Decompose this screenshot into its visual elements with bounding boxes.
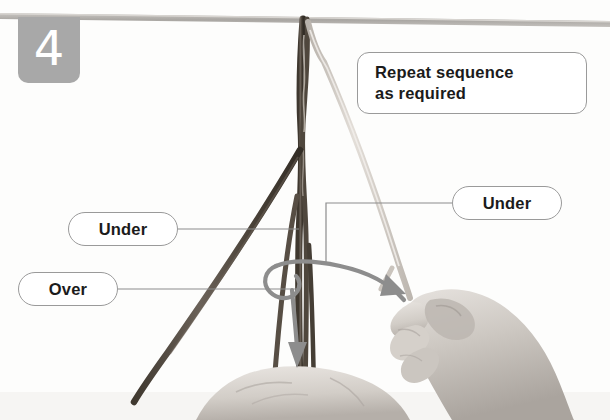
callout-under-left-label: Under xyxy=(99,220,148,239)
callout-over-label: Over xyxy=(49,280,87,299)
callout-under-right: Under xyxy=(452,186,562,220)
callout-over: Over xyxy=(18,272,118,306)
step-number-text: 4 xyxy=(34,24,65,72)
callout-under-right-label: Under xyxy=(483,194,532,213)
callout-under-left: Under xyxy=(68,212,178,246)
callout-repeat-sequence: Repeat sequence as required xyxy=(357,52,587,114)
callout-repeat-line2: as required xyxy=(375,83,514,104)
step-number-badge: 4 xyxy=(18,17,80,83)
callout-repeat-line1: Repeat sequence xyxy=(375,62,514,83)
instruction-diagram: 4 Repeat sequence as required Under Over… xyxy=(0,0,610,420)
